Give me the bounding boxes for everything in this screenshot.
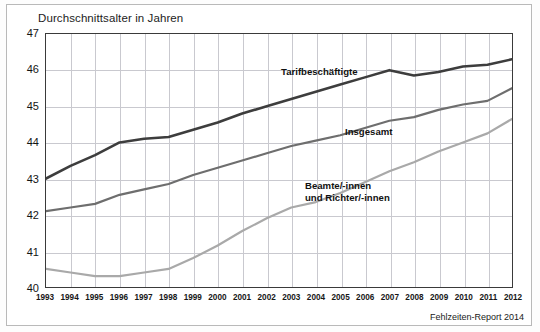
x-axis-tick-label: 2004 <box>307 293 325 302</box>
x-axis-tick-label: 2010 <box>455 293 473 302</box>
y-axis-tick-label: 43 <box>27 173 39 185</box>
x-axis-tick-label: 1998 <box>159 293 177 302</box>
x-axis-tick-label: 2012 <box>504 293 522 302</box>
y-axis-tick-label: 47 <box>27 27 39 39</box>
y-axis-tick-label: 46 <box>27 63 39 75</box>
x-axis-tick-label: 1999 <box>184 293 202 302</box>
x-axis-tick-label: 2005 <box>331 293 349 302</box>
y-axis-tick-label: 41 <box>27 246 39 258</box>
x-axis-tick-label: 1996 <box>110 293 128 302</box>
x-axis-tick-label: 1993 <box>36 293 54 302</box>
x-axis-tick-label: 2001 <box>233 293 251 302</box>
x-axis-tick-label: 2007 <box>381 293 399 302</box>
series-label-insgesamt: Insgesamt <box>345 126 392 138</box>
series-label-tarifbeschaeftigte: Tarifbeschäftigte <box>281 66 358 78</box>
source-note: Fehlzeiten-Report 2014 <box>430 312 524 322</box>
x-axis-tick-label: 2003 <box>282 293 300 302</box>
x-axis-tick-label: 2011 <box>479 293 497 302</box>
x-axis-tick-label: 2000 <box>208 293 226 302</box>
x-axis-tick-label: 2006 <box>356 293 374 302</box>
x-axis-ticks: 1993199419951996199719981999200020012002… <box>45 33 513 288</box>
series-label-beamte-line2: und Richter/-innen <box>305 192 390 203</box>
chart-figure: Durchschnittsalter in Jahren 40414243444… <box>0 0 540 332</box>
x-axis-tick-label: 2008 <box>405 293 423 302</box>
y-axis-tick-label: 45 <box>27 100 39 112</box>
y-axis-tick-label: 42 <box>27 209 39 221</box>
x-axis-tick-label: 1995 <box>85 293 103 302</box>
series-label-beamte-line1: Beamte/-innen <box>305 180 371 191</box>
y-axis-tick-label: 44 <box>27 136 39 148</box>
chart-axis-title: Durchschnittsalter in Jahren <box>38 12 183 24</box>
x-axis-tick-label: 2002 <box>258 293 276 302</box>
x-axis-tick-label: 1997 <box>134 293 152 302</box>
x-axis-tick-label: 1994 <box>61 293 79 302</box>
x-axis-tick-label: 2009 <box>430 293 448 302</box>
series-label-beamte-richter: Beamte/-innenund Richter/-innen <box>305 180 390 203</box>
